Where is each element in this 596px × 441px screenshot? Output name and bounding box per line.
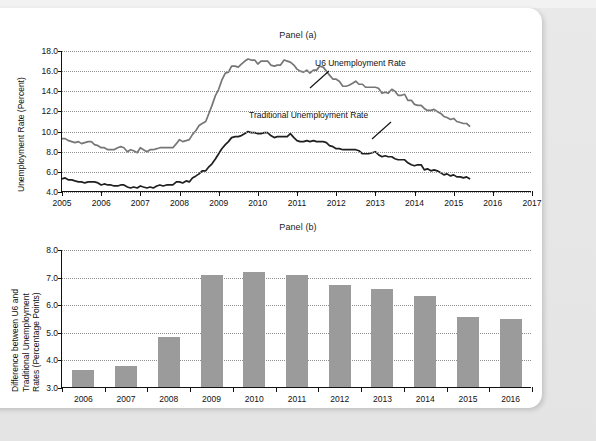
panel-b-y-axis-title-line: Rates (Percentage Points): [31, 289, 42, 392]
panel-a-series-path: [62, 132, 470, 188]
panel-a-gridline: [62, 51, 531, 52]
panel-a-y-tick-mark: [58, 152, 62, 153]
panel-a-y-tick-mark: [58, 132, 62, 133]
panel-a-x-tick-label: 2005: [53, 198, 72, 208]
panel-b-bar: [158, 337, 180, 387]
panel-b-y-axis-title-line: Traditional Unemployment: [21, 289, 32, 392]
panel-a-y-tick-mark: [58, 111, 62, 112]
panel-b-x-tick-mark: [361, 387, 362, 392]
panel-b-x-tick-label: 2006: [74, 394, 93, 404]
panel-b-x-tick-label: 2011: [288, 394, 306, 404]
panel-a-y-tick-mark: [58, 71, 62, 72]
panel-a-x-tick-label: 2010: [248, 198, 267, 208]
panel-b-y-axis-title-line: Difference between U6 and: [10, 289, 21, 392]
panel-b-y-tick-mark: [58, 305, 62, 306]
panel-a-x-tick-label: 2006: [92, 198, 111, 208]
panel-b-y-tick-label: 8.0: [46, 245, 58, 255]
panel-b-x-tick-mark: [147, 387, 148, 392]
panel-a-x-tick-mark: [180, 191, 181, 196]
panel-b-x-tick-label: 2013: [373, 394, 392, 404]
panel-b-plot-area: 3.04.05.06.07.08.02006200720082009201020…: [61, 250, 531, 388]
panel-a-x-tick-mark: [62, 191, 63, 196]
panel-a-x-tick-label: 2007: [131, 198, 150, 208]
panel-b-x-tick-label: 2008: [159, 394, 178, 404]
panel-a-x-tick-label: 2013: [366, 198, 385, 208]
panel-b-x-tick-label: 2015: [458, 394, 477, 404]
panel-a-x-tick-label: 2011: [288, 198, 306, 208]
panel-b-y-tick-mark: [58, 278, 62, 279]
panel-a-x-tick-label: 2017: [523, 198, 542, 208]
panel-a-gridline: [62, 132, 531, 133]
panel-b-x-tick-label: 2009: [202, 394, 221, 404]
panel-b-bar: [457, 317, 479, 387]
panel-a-x-tick-mark: [375, 191, 376, 196]
panel-a-x-tick-mark: [532, 191, 533, 196]
panel-a-x-tick-label: 2014: [405, 198, 424, 208]
panel-b-x-tick-mark: [276, 387, 277, 392]
panel-a-x-tick-label: 2008: [170, 198, 189, 208]
figure-unemployment-rates: Panel (a) Unemployment Rate (Percent) 4.…: [0, 0, 596, 441]
panel-b-bar: [243, 272, 265, 387]
panel-b-y-tick-mark: [58, 250, 62, 251]
panel-a-x-tick-mark: [219, 191, 220, 196]
panel-a-x-tick-label: 2009: [209, 198, 228, 208]
panel-b-y-tick-label: 7.0: [46, 273, 58, 283]
panel-a-x-tick-label: 2016: [483, 198, 502, 208]
panel-b-x-tick-mark: [233, 387, 234, 392]
panel-b-x-tick-mark: [62, 387, 63, 392]
panel-b-x-tick-mark: [318, 387, 319, 392]
panel-b-bar: [414, 296, 436, 387]
panel-a-x-tick-mark: [493, 191, 494, 196]
panel-a-y-tick-label: 6.0: [46, 167, 58, 177]
panel-a-gridline: [62, 152, 531, 153]
panel-a-y-tick-label: 14.0: [41, 86, 58, 96]
panel-b-title: Panel (b): [238, 222, 358, 232]
panel-a-y-tick-mark: [58, 91, 62, 92]
panel-b-x-tick-mark: [105, 387, 106, 392]
panel-a-y-tick-label: 8.0: [46, 147, 58, 157]
panel-b-x-tick-mark: [190, 387, 191, 392]
panel-a-gridline: [62, 71, 531, 72]
panel-b-y-tick-label: 5.0: [46, 328, 58, 338]
panel-a-x-tick-mark: [297, 191, 298, 196]
panel-b-y-axis-title: Difference between U6 andTraditional Une…: [10, 289, 42, 392]
panel-b-y-tick-label: 3.0: [46, 383, 58, 393]
panel-b-x-tick-mark: [532, 387, 533, 392]
panel-b-x-tick-label: 2016: [501, 394, 520, 404]
panel-a-x-tick-label: 2015: [444, 198, 463, 208]
panel-a-title: Panel (a): [238, 30, 358, 40]
panel-b-bar: [371, 289, 393, 387]
panel-a-gridline: [62, 91, 531, 92]
panel-b-x-tick-label: 2010: [245, 394, 264, 404]
panel-a-gridline: [62, 172, 531, 173]
panel-b-y-tick-mark: [58, 360, 62, 361]
panel-a-y-tick-mark: [58, 172, 62, 173]
panel-b-x-tick-mark: [489, 387, 490, 392]
panel-a-x-tick-mark: [140, 191, 141, 196]
panel-b-x-tick-label: 2007: [117, 394, 136, 404]
panel-b-bar: [72, 370, 94, 387]
panel-a-x-tick-mark: [454, 191, 455, 196]
panel-b-x-tick-label: 2012: [330, 394, 349, 404]
panel-a-y-tick-label: 10.0: [41, 127, 58, 137]
panel-b-gridline: [62, 250, 531, 251]
panel-a-y-tick-label: 18.0: [41, 46, 58, 56]
panel-a-x-tick-mark: [415, 191, 416, 196]
panel-a-y-tick-label: 12.0: [41, 106, 58, 116]
panel-b-y-tick-label: 4.0: [46, 355, 58, 365]
panel-a-x-tick-mark: [336, 191, 337, 196]
panel-b-bar: [500, 319, 522, 387]
panel-b-y-tick-mark: [58, 333, 62, 334]
panel-b-bar: [329, 285, 351, 387]
panel-a-label-traditional: Traditional Unemployment Rate: [249, 110, 368, 120]
panel-a-y-tick-mark: [58, 51, 62, 52]
panel-b-bar: [201, 275, 223, 387]
panel-a-x-tick-mark: [258, 191, 259, 196]
panel-b-bar: [286, 275, 308, 387]
panel-b-x-tick-mark: [447, 387, 448, 392]
panel-a-series-path: [62, 59, 470, 153]
panel-a-y-axis-title: Unemployment Rate (Percent): [16, 77, 27, 192]
panel-a-x-tick-mark: [101, 191, 102, 196]
panel-a-y-tick-label: 4.0: [46, 187, 58, 197]
panel-a-y-tick-label: 16.0: [41, 66, 58, 76]
